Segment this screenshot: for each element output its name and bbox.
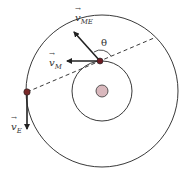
- earth: [24, 89, 30, 95]
- label-theta: θ: [101, 37, 107, 48]
- mars: [97, 58, 103, 64]
- label-v-me-base: v: [75, 12, 81, 23]
- label-v-e-base: v: [11, 121, 17, 132]
- label-v-e-sub: E: [17, 127, 22, 135]
- sun: [96, 85, 108, 97]
- label-v-me-sub: ME: [81, 18, 93, 26]
- label-v-e: vE: [11, 122, 22, 135]
- label-v-me: vME: [75, 13, 93, 26]
- theta-arc: [94, 50, 111, 56]
- label-v-m-base: v: [49, 57, 55, 68]
- orbital-velocity-diagram: vME θ vM vE: [0, 0, 187, 176]
- label-v-m: vM: [49, 58, 62, 71]
- diagram-canvas: [0, 0, 187, 176]
- earth-mars-line: [27, 38, 154, 92]
- v-me-arrow: [74, 32, 100, 61]
- label-v-m-sub: M: [55, 63, 62, 71]
